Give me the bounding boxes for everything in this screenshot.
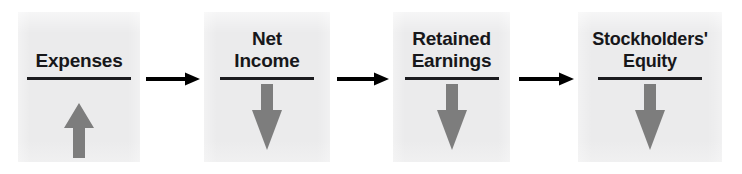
trend-arrow-slot-net-income (204, 80, 330, 162)
flow-box-expenses: Expenses (18, 12, 140, 162)
connector-expenses-to-net-income (146, 70, 200, 88)
connector-net-income-to-retained-earnings (337, 70, 389, 88)
arrow-up-icon (62, 102, 96, 158)
box-label-stockholders-equity: Stockholders' Equity (578, 28, 722, 72)
connector-retained-earnings-to-stockholders-equity (519, 70, 574, 88)
arrow-down-icon (633, 84, 667, 150)
arrow-right-icon (146, 70, 200, 88)
box-label-net-income: Net Income (204, 28, 330, 72)
box-label-expenses: Expenses (18, 50, 140, 72)
flow-box-retained-earnings: Retained Earnings (393, 12, 510, 162)
arrow-down-icon (435, 84, 469, 150)
arrow-right-icon (337, 70, 389, 88)
flow-diagram: ExpensesNet IncomeRetained EarningsStock… (0, 0, 742, 174)
flow-box-net-income: Net Income (204, 12, 330, 162)
box-label-retained-earnings: Retained Earnings (393, 28, 510, 72)
trend-arrow-slot-retained-earnings (393, 80, 510, 162)
trend-arrow-slot-stockholders-equity (578, 80, 722, 162)
arrow-right-icon (519, 70, 574, 88)
arrow-down-icon (250, 84, 284, 150)
trend-arrow-slot-expenses (18, 80, 140, 162)
flow-box-stockholders-equity: Stockholders' Equity (578, 12, 722, 162)
